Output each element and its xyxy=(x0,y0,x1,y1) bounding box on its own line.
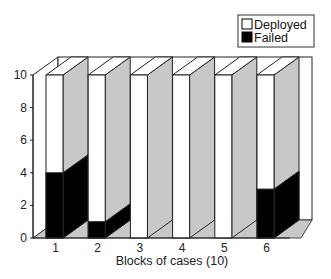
y-tick-label: 0 xyxy=(20,231,27,245)
y-tick-label: 6 xyxy=(20,133,27,147)
x-tick-label: 6 xyxy=(263,241,270,255)
x-tick-label: 1 xyxy=(52,241,59,255)
legend-swatch-failed xyxy=(242,32,252,42)
legend-label-deployed: Deployed xyxy=(254,18,307,32)
bar-side-face xyxy=(190,57,215,238)
bar-segment-failed xyxy=(257,189,274,238)
x-tick-label: 4 xyxy=(179,241,186,255)
x-axis-title: Blocks of cases (10) xyxy=(116,254,229,268)
stacked-3d-bar-chart: 0246810 123456 Blocks of cases (10) Depl… xyxy=(0,0,331,279)
bar-3 xyxy=(130,57,172,238)
bar-segment-deployed xyxy=(173,75,190,238)
y-tick-label: 2 xyxy=(20,198,27,212)
legend-swatch-deployed xyxy=(242,19,252,29)
x-tick-label: 2 xyxy=(94,241,101,255)
bar-side-face xyxy=(147,57,172,238)
bar-4 xyxy=(173,57,215,238)
bar-segment-deployed xyxy=(130,75,147,238)
bar-segment-deployed xyxy=(88,75,105,238)
bar-side-face xyxy=(232,57,257,238)
legend-label-failed: Failed xyxy=(254,31,288,45)
x-axis: 123456 xyxy=(33,238,290,255)
bar-5 xyxy=(215,57,257,238)
bar-1 xyxy=(46,57,88,238)
bar-6 xyxy=(257,57,299,238)
bar-segment-failed xyxy=(88,222,105,238)
bar-2 xyxy=(88,57,130,238)
x-tick-label: 3 xyxy=(137,241,144,255)
y-tick-label: 10 xyxy=(14,68,28,82)
bar-segment-failed xyxy=(46,173,63,238)
bars xyxy=(46,57,299,238)
x-tick-label: 5 xyxy=(221,241,228,255)
y-tick-label: 8 xyxy=(20,101,27,115)
y-tick-label: 4 xyxy=(20,166,27,180)
bar-segment-deployed xyxy=(215,75,232,238)
legend: Deployed Failed xyxy=(238,15,314,47)
y-axis: 0246810 xyxy=(14,68,33,245)
